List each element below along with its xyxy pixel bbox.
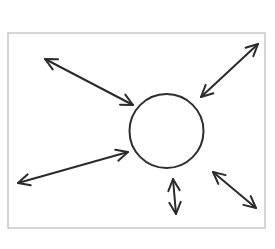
canvas-background: [0, 0, 275, 249]
figure-svg: [0, 0, 275, 249]
diagram-canvas: [0, 0, 275, 249]
